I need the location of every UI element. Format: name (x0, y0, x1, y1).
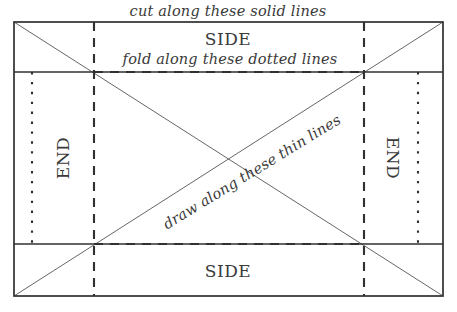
panel-label-side-bottom: SIDE (205, 263, 251, 280)
solid-cut-lines-group (14, 72, 443, 244)
panel-label-side-top: SIDE (205, 31, 251, 48)
caption-cut-solid-lines: cut along these solid lines (130, 4, 327, 19)
caption-fold-dotted-lines: fold along these dotted lines (123, 52, 338, 67)
panel-label-end-right: END (384, 137, 401, 179)
dotted-fold-lines-group (32, 72, 418, 244)
panel-label-end-left: END (55, 137, 72, 179)
diagram-canvas: SIDE SIDE END END cut along these solid … (0, 0, 457, 312)
